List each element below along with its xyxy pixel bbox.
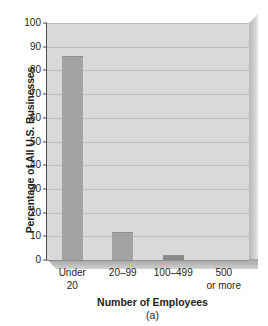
- y-tick-mark-50: [43, 141, 47, 142]
- x-tick-label-0: Under20: [59, 267, 86, 292]
- y-tick-label-70: 70: [30, 89, 41, 99]
- y-tick-mark-80: [43, 70, 47, 71]
- x-tick-label-3: 500or more: [207, 267, 241, 292]
- y-tick-mark-90: [43, 46, 47, 47]
- plot-area: 0102030405060708090100 Under2020–99100–4…: [47, 23, 249, 260]
- y-tick-label-10: 10: [30, 231, 41, 241]
- y-tick-label-80: 80: [30, 65, 41, 75]
- gridline-90: [47, 47, 249, 48]
- y-tick-label-90: 90: [30, 42, 41, 52]
- y-tick-mark-20: [43, 212, 47, 213]
- y-tick-mark-30: [43, 188, 47, 189]
- y-tick-mark-60: [43, 117, 47, 118]
- y-tick-label-100: 100: [24, 18, 41, 28]
- x-tick-line-2: or more: [207, 280, 241, 293]
- x-tick-line-1: Under: [59, 267, 86, 278]
- plot-3d-right-face: [249, 14, 258, 260]
- panel-letter: (a): [47, 309, 258, 322]
- gridline-100: [47, 23, 249, 24]
- y-tick-label-40: 40: [30, 160, 41, 170]
- x-tick-line-1: 100–499: [154, 267, 193, 278]
- y-tick-mark-10: [43, 236, 47, 237]
- y-tick-label-20: 20: [30, 208, 41, 218]
- plot-area-wrapper: 0102030405060708090100 Under2020–99100–4…: [47, 14, 258, 260]
- y-tick-mark-0: [43, 260, 47, 261]
- y-tick-mark-40: [43, 165, 47, 166]
- y-tick-label-30: 30: [30, 184, 41, 194]
- x-tick-line-2: 20: [59, 280, 86, 293]
- y-tick-mark-70: [43, 94, 47, 95]
- x-tick-line-1: 20–99: [109, 267, 137, 278]
- bar-2: [163, 255, 184, 260]
- bar-chart-figure: Percentage of All U.S. Businesses 010203…: [0, 0, 268, 326]
- bar-1: [112, 232, 133, 260]
- x-tick-label-2: 100–499: [154, 267, 193, 280]
- x-axis-title: Number of Employees: [47, 296, 258, 309]
- cropped-title-text: [60, 0, 240, 6]
- bar-0: [62, 56, 83, 260]
- x-tick-line-1: 500: [215, 267, 232, 278]
- y-tick-label-60: 60: [30, 113, 41, 123]
- x-tick-label-1: 20–99: [109, 267, 137, 280]
- y-tick-label-50: 50: [30, 137, 41, 147]
- gridline-0: [47, 260, 249, 261]
- y-tick-label-0: 0: [35, 255, 41, 265]
- y-tick-mark-100: [43, 23, 47, 24]
